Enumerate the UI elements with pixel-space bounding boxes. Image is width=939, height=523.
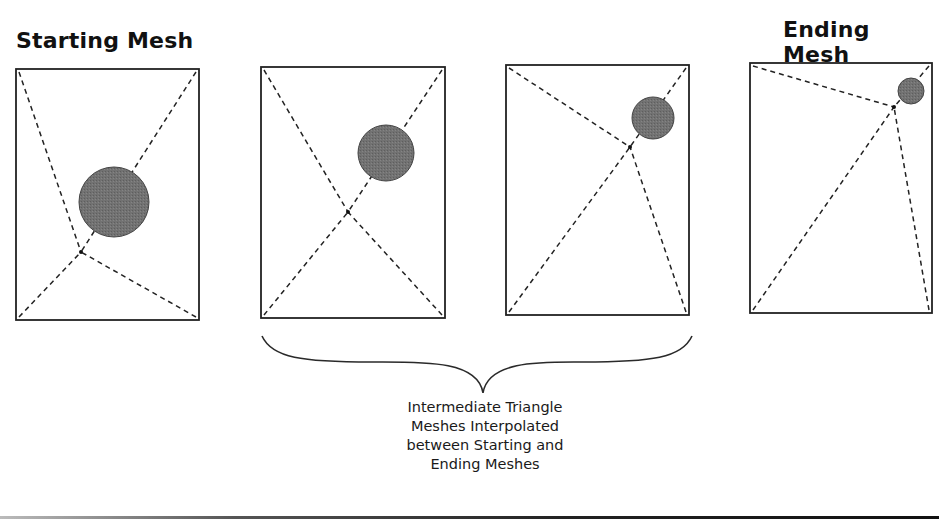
feature-circle bbox=[79, 167, 149, 237]
mesh-vertex bbox=[346, 210, 350, 214]
bottom-rule bbox=[0, 516, 939, 519]
feature-circle bbox=[898, 78, 924, 104]
feature-circle bbox=[358, 125, 414, 181]
mesh-frame bbox=[261, 67, 445, 318]
caption-line: Meshes Interpolated bbox=[355, 417, 615, 436]
starting-mesh bbox=[16, 69, 199, 320]
intermediate-mesh-1 bbox=[261, 67, 445, 318]
caption-line: between Starting and bbox=[355, 436, 615, 455]
intermediate-caption: Intermediate Triangle Meshes Interpolate… bbox=[355, 398, 615, 474]
curly-brace bbox=[262, 336, 692, 393]
mesh-vertex bbox=[892, 105, 896, 109]
ending-mesh bbox=[750, 63, 932, 313]
mesh-vertex bbox=[79, 250, 83, 254]
feature-circle bbox=[632, 97, 674, 139]
caption-line: Ending Meshes bbox=[355, 455, 615, 474]
mesh-vertex bbox=[628, 145, 632, 149]
caption-line: Intermediate Triangle bbox=[355, 398, 615, 417]
intermediate-mesh-2 bbox=[506, 65, 689, 315]
